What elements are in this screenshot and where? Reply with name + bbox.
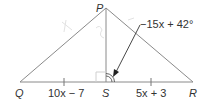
segment-label-qs: 10x − 7 bbox=[48, 87, 84, 99]
vertex-label-r: R bbox=[189, 87, 197, 99]
pencil-marks bbox=[62, 18, 134, 38]
right-angle-mark bbox=[96, 72, 106, 82]
vertex-label-s: S bbox=[102, 87, 110, 99]
triangle-diagram: P Q S R 10x − 7 5x + 3 −15x + 42° bbox=[0, 0, 211, 105]
vertex-label-p: P bbox=[96, 2, 104, 14]
angle-label: −15x + 42° bbox=[140, 18, 193, 30]
angle-arrow bbox=[113, 25, 140, 77]
vertex-label-q: Q bbox=[15, 87, 24, 99]
angle-arc-mark bbox=[106, 74, 115, 83]
segment-label-sr: 5x + 3 bbox=[136, 87, 166, 99]
side-pq bbox=[20, 8, 106, 82]
